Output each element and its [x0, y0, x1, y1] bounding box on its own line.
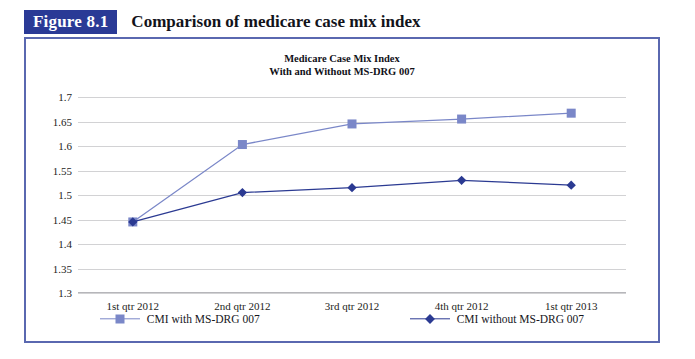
plot-area: 1.71.651.61.551.51.451.41.351.3 1st qtr … [78, 97, 626, 293]
gridline [78, 293, 626, 294]
y-axis-tick-label: 1.65 [53, 116, 72, 128]
chart-title-line1: Medicare Case Mix Index [26, 53, 658, 66]
chart-legend: CMI with MS-DRG 007CMI without MS-DRG 00… [26, 313, 658, 325]
y-axis-tick-label: 1.4 [58, 238, 72, 250]
y-axis-tick-label: 1.3 [58, 287, 72, 299]
y-axis-tick-label: 1.55 [53, 165, 72, 177]
legend-label: CMI with MS-DRG 007 [147, 313, 260, 325]
series-line [133, 113, 571, 222]
chart-title-line2: With and Without MS-DRG 007 [26, 66, 658, 79]
legend-item[interactable]: CMI without MS-DRG 007 [410, 313, 584, 325]
data-point-square-marker [457, 115, 466, 124]
x-axis-tick-label: 2nd qtr 2012 [214, 300, 270, 312]
data-point-diamond-marker [567, 181, 576, 190]
legend-square-marker-icon [115, 315, 124, 324]
data-point-square-marker [567, 109, 576, 118]
y-axis-tick-label: 1.45 [53, 214, 72, 226]
series-plot [78, 97, 626, 293]
data-point-diamond-marker [347, 183, 356, 192]
x-axis-tick-label: 1st qtr 2012 [107, 300, 160, 312]
legend-swatch [100, 313, 140, 325]
y-axis-tick-label: 1.35 [53, 263, 72, 275]
chart-title: Medicare Case Mix Index With and Without… [26, 53, 658, 78]
data-point-square-marker [348, 119, 357, 128]
data-point-diamond-marker [238, 188, 247, 197]
legend-swatch [410, 313, 450, 325]
x-axis-tick-label: 3rd qtr 2012 [325, 300, 379, 312]
y-axis-tick-label: 1.6 [58, 140, 72, 152]
x-axis-tick-label: 1st qtr 2013 [545, 300, 598, 312]
legend-diamond-marker-icon [425, 314, 435, 324]
figure-number-badge: Figure 8.1 [24, 10, 117, 34]
x-axis-tick-label: 4th qtr 2012 [435, 300, 489, 312]
data-point-square-marker [238, 140, 247, 149]
figure-caption: Comparison of medicare case mix index [131, 10, 420, 34]
legend-label: CMI without MS-DRG 007 [457, 313, 584, 325]
legend-item[interactable]: CMI with MS-DRG 007 [100, 313, 260, 325]
figure-header: Figure 8.1 Comparison of medicare case m… [24, 10, 420, 34]
data-point-diamond-marker [457, 176, 466, 185]
y-axis-tick-label: 1.5 [58, 189, 72, 201]
chart-frame: Medicare Case Mix Index With and Without… [24, 37, 660, 343]
y-axis-tick-label: 1.7 [58, 91, 72, 103]
